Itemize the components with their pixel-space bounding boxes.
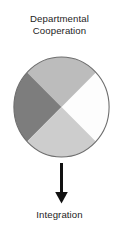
caption-integration: Integration [0,209,119,221]
page-title: Departmental Cooperation [0,13,119,38]
title-line-2: Cooperation [0,25,119,37]
title-line-1: Departmental [0,13,119,25]
quartered-circle-diagram [13,56,110,158]
down-arrow-icon [51,163,72,204]
figure-departmental-cooperation: Departmental Cooperation [0,0,119,228]
